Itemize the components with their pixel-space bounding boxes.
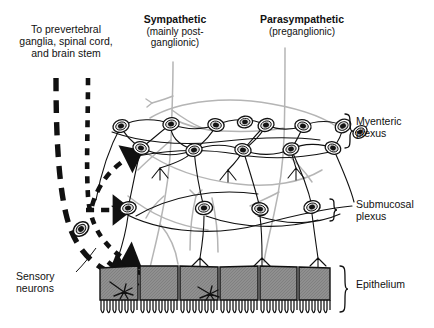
prevertebral-line-1: To prevertebral [6, 24, 126, 36]
label-myenteric-plexus: Myenteric plexus [356, 116, 432, 140]
label-parasympathetic: Parasympathetic (preganglionic) [252, 14, 352, 37]
sensory-neuron-fibers [56, 78, 212, 290]
neuron [237, 115, 254, 129]
prevertebral-line-2: ganglia, spinal cord, [6, 36, 126, 48]
sympathetic-line-3: ganglionic) [128, 37, 222, 48]
epithelial-cell [260, 266, 297, 300]
neuron [111, 118, 130, 135]
submucosal-line-1: Submucosal [356, 199, 432, 211]
neuron [303, 199, 322, 215]
enteric-fiber-network [96, 120, 354, 268]
epithelium-line-1: Epithelium [356, 279, 432, 291]
label-prevertebral-target: To prevertebral ganglia, spinal cord, an… [6, 24, 126, 59]
neuron [119, 200, 137, 215]
epithelium-group [100, 266, 330, 313]
myenteric-line-1: Myenteric [356, 116, 432, 128]
autonomic-fibers-group [128, 48, 344, 268]
epithelial-cell [140, 266, 178, 300]
neuron [323, 140, 342, 157]
label-epithelium: Epithelium [356, 279, 432, 291]
parasympathetic-title: Parasympathetic [252, 14, 352, 26]
label-sensory-neurons: Sensory neurons [16, 271, 78, 295]
enteric-nervous-system-diagram: To prevertebral ganglia, spinal cord, an… [0, 0, 434, 328]
prevertebral-line-3: and brain stem [6, 48, 126, 60]
epithelial-cell [220, 266, 258, 300]
myenteric-line-2: plexus [356, 128, 432, 140]
sensory-tract-right [87, 78, 130, 262]
label-sympathetic: Sympathetic (mainly post- ganglionic) [128, 14, 222, 48]
sensory-branch-to-myenteric [92, 156, 132, 206]
sensory-line-1: Sensory [16, 271, 78, 283]
brace-epithelium [340, 266, 348, 312]
label-submucosal-plexus: Submucosal plexus [356, 199, 432, 223]
neuron [195, 200, 214, 215]
sensory-line-2: neurons [16, 283, 78, 295]
parasympathetic-line-2: (preganglionic) [252, 26, 352, 37]
submucosal-line-2: plexus [356, 211, 432, 223]
sympathetic-line-2: (mainly post- [128, 26, 222, 37]
brush-border-microvilli [101, 300, 330, 313]
epithelial-cell [299, 267, 330, 300]
sympathetic-title: Sympathetic [128, 14, 222, 26]
neuron [294, 118, 313, 134]
